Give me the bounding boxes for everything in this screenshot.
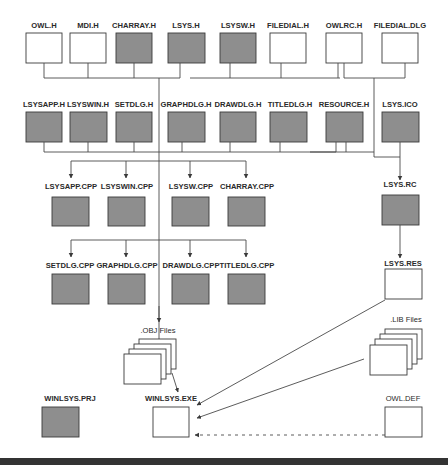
file-drawdlg-cpp: DRAWDLG.CPP <box>163 261 220 304</box>
file-label: LSYS.RC <box>384 180 417 189</box>
file-box <box>116 112 152 142</box>
file-label: WINLSYS.EXE <box>145 394 197 403</box>
file-box <box>108 274 145 304</box>
file-box <box>168 112 205 142</box>
file-charray-h: CHARRAY.H <box>112 21 156 63</box>
file-box <box>108 197 145 226</box>
file-lsysapp-h: LSYSAPP.H <box>23 100 65 142</box>
file-lsyswin-h: LSYSWIN.H <box>67 100 109 142</box>
file-box <box>382 33 418 63</box>
file-box <box>228 274 265 304</box>
file-label: FILEDIAL.DLG <box>374 21 426 30</box>
file-box <box>382 195 419 225</box>
file-winlsys-exe: WINLSYS.EXE <box>145 394 197 437</box>
file-label: .OBJ Files <box>140 326 175 335</box>
file-box <box>270 112 307 142</box>
file-setdlg-h: SETDLG.H <box>115 100 153 142</box>
file-titledlg-cpp: TITLEDLG.CPP <box>220 261 275 304</box>
file-owlrc-h: OWLRC.H <box>326 21 362 63</box>
file-lsys-rc: LSYS.RC <box>382 180 419 225</box>
file-box <box>228 197 265 226</box>
file-box <box>172 274 209 304</box>
file-graphdlg-cpp: GRAPHDLG.CPP <box>96 261 157 304</box>
file-box <box>168 33 205 63</box>
file-label: MDI.H <box>77 21 99 30</box>
file-label: LSYS.ICO <box>382 100 418 109</box>
file-box <box>370 345 407 375</box>
file-box <box>270 33 306 63</box>
file-lsysw-cpp: LSYSW.CPP <box>169 182 213 226</box>
file-titledlg-h: TITLEDLG.H <box>268 100 313 142</box>
file-label: LSYSWIN.H <box>67 100 109 109</box>
file-label: FILEDIAL.H <box>267 21 309 30</box>
obj-files-stack: .OBJ Files <box>124 326 178 392</box>
file-label: OWL.DEF <box>386 394 421 403</box>
file-setdlg-cpp: SETDLG.CPP <box>46 261 95 304</box>
file-drawdlg-h: DRAWDLG.H <box>215 100 262 142</box>
file-box <box>52 197 89 226</box>
file-box <box>172 197 209 226</box>
file-label: CHARRAY.H <box>112 21 156 30</box>
file-box <box>385 407 422 437</box>
file-box <box>382 112 419 142</box>
file-label: LSYSWIN.CPP <box>101 182 153 191</box>
file-box <box>326 33 362 63</box>
file-label: LSYSW.CPP <box>169 182 213 191</box>
file-box <box>220 112 256 142</box>
file-label: GRAPHDLG.H <box>160 100 211 109</box>
file-label: CHARRAY.CPP <box>220 182 274 191</box>
file-label: TITLEDLG.CPP <box>220 261 275 270</box>
file-label: WINLSYS.PRJ <box>44 394 95 403</box>
file-label: LSYS.RES <box>384 259 422 268</box>
file-box <box>26 112 62 142</box>
exe-input-links <box>195 300 385 435</box>
file-owl-def: OWL.DEF <box>385 394 422 437</box>
file-label: .LIB Files <box>390 315 422 324</box>
file-label: LSYS.H <box>172 21 199 30</box>
row3-connectors <box>71 225 400 258</box>
file-label: OWLRC.H <box>326 21 362 30</box>
file-label: LSYSAPP.H <box>23 100 65 109</box>
file-box <box>124 354 161 384</box>
file-lsysw-h: LSYSW.H <box>220 21 256 63</box>
file-box <box>220 33 256 63</box>
file-label: SETDLG.H <box>115 100 153 109</box>
file-box <box>26 33 62 63</box>
build-dependency-diagram: OWL.H MDI.H CHARRAY.H LSYS.H LSYSW.H FIL… <box>0 0 448 468</box>
file-filedial-h: FILEDIAL.H <box>267 21 309 63</box>
file-label: RESOURCE.H <box>319 100 370 109</box>
file-label: OWL.H <box>31 21 56 30</box>
file-lsyswin-cpp: LSYSWIN.CPP <box>101 182 153 226</box>
file-lsys-ico: LSYS.ICO <box>382 100 419 142</box>
file-label: GRAPHDLG.CPP <box>96 261 157 270</box>
file-box <box>70 33 106 63</box>
file-mdi-h: MDI.H <box>70 21 106 63</box>
file-owl-h: OWL.H <box>26 21 62 63</box>
file-lsys-res: LSYS.RES <box>384 259 422 299</box>
file-label: TITLEDLG.H <box>268 100 313 109</box>
file-graphdlg-h: GRAPHDLG.H <box>160 100 211 142</box>
file-filedial-dlg: FILEDIAL.DLG <box>374 21 426 63</box>
file-box <box>116 33 152 63</box>
file-winlsys-prj: WINLSYS.PRJ <box>42 394 96 437</box>
file-lsysapp-cpp: LSYSAPP.CPP <box>45 182 97 226</box>
file-label: DRAWDLG.CPP <box>163 261 220 270</box>
file-box <box>153 407 189 437</box>
file-box <box>385 269 422 299</box>
row2-connectors <box>44 142 400 180</box>
file-box <box>326 112 363 142</box>
file-resource-h: RESOURCE.H <box>319 100 370 142</box>
file-label: LSYSAPP.CPP <box>45 182 97 191</box>
file-box <box>42 407 79 437</box>
file-box <box>52 274 89 304</box>
file-lsys-h: LSYS.H <box>168 21 205 63</box>
file-charray-cpp: CHARRAY.CPP <box>220 182 274 226</box>
file-box <box>70 112 107 142</box>
file-label: DRAWDLG.H <box>215 100 262 109</box>
lib-files-stack: .LIB Files <box>370 315 422 375</box>
bottom-divider-bar <box>0 458 448 465</box>
file-label: LSYSW.H <box>221 21 255 30</box>
file-label: SETDLG.CPP <box>46 261 95 270</box>
